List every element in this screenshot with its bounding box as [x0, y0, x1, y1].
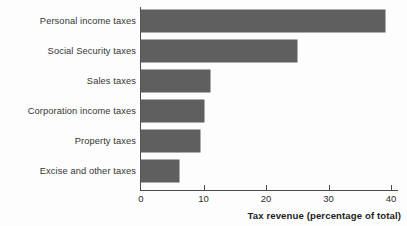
bar-rows: Personal income taxesSocial Security tax… — [0, 0, 407, 190]
category-label: Property taxes — [75, 130, 136, 152]
bar — [141, 70, 210, 92]
plot-area: Personal income taxesSocial Security tax… — [0, 0, 407, 226]
bar-row: Property taxes — [0, 130, 407, 152]
bar — [141, 100, 204, 122]
bar — [141, 160, 179, 182]
bar-row: Excise and other taxes — [0, 160, 407, 182]
x-axis-tick — [204, 185, 205, 191]
x-axis-tick — [266, 185, 267, 191]
bar-row: Corporation income taxes — [0, 100, 407, 122]
x-axis-tick-label: 30 — [309, 193, 349, 204]
category-label: Corporation income taxes — [28, 100, 136, 122]
x-axis-tick-label: 40 — [371, 193, 407, 204]
x-axis-line — [140, 190, 398, 191]
x-axis-tick-label: 0 — [121, 193, 161, 204]
x-axis-tick-label: 10 — [184, 193, 224, 204]
category-label: Excise and other taxes — [40, 160, 136, 182]
x-axis-title: Tax revenue (percentage of total) — [248, 210, 401, 221]
bar — [141, 40, 297, 62]
category-label: Social Security taxes — [48, 40, 136, 62]
bar-row: Social Security taxes — [0, 40, 407, 62]
bar-row: Personal income taxes — [0, 10, 407, 32]
bar-row: Sales taxes — [0, 70, 407, 92]
bar — [141, 10, 385, 32]
bar-chart-figure: Personal income taxesSocial Security tax… — [0, 0, 407, 226]
category-label: Personal income taxes — [40, 10, 136, 32]
category-label: Sales taxes — [87, 70, 136, 92]
x-axis-tick — [329, 185, 330, 191]
x-axis-tick-label: 20 — [246, 193, 286, 204]
bar — [141, 130, 200, 152]
x-axis-tick — [391, 185, 392, 191]
